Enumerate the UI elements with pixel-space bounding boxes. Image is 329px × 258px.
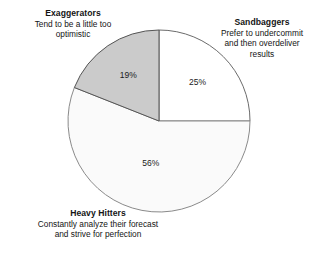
callout-exaggerators-description: Tend to be a little too optimistic	[8, 19, 138, 40]
slice-label-sandbaggers: 25%	[189, 77, 206, 87]
slice-label-heavy-hitters: 56%	[142, 158, 159, 168]
callout-sandbaggers-description: Prefer to undercommit and then overdeliv…	[198, 28, 326, 59]
callout-heavy-hitters-description: Constantly analyze their forecast and st…	[8, 219, 188, 240]
callout-sandbaggers: Sandbaggers Prefer to undercommit and th…	[198, 17, 326, 59]
callout-exaggerators: Exaggerators Tend to be a little too opt…	[8, 8, 138, 40]
callout-heavy-hitters-title: Heavy Hitters	[8, 208, 188, 218]
pie-chart-figure: 25% 56% 19% Exaggerators Tend to be a li…	[0, 0, 329, 258]
callout-exaggerators-title: Exaggerators	[8, 8, 138, 18]
callout-sandbaggers-title: Sandbaggers	[198, 17, 326, 27]
slice-label-exaggerators: 19%	[120, 70, 137, 80]
callout-heavy-hitters: Heavy Hitters Constantly analyze their f…	[8, 208, 188, 240]
